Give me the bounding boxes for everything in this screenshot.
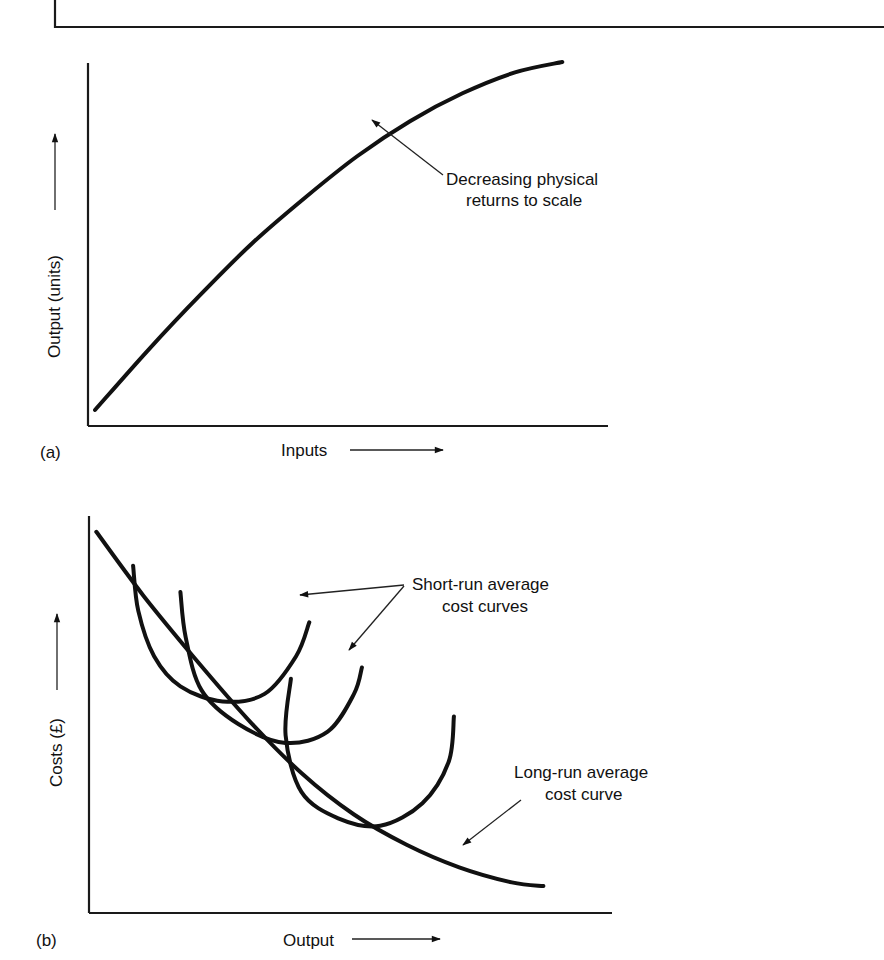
chart-a-annotation-line-2: returns to scale: [466, 191, 582, 210]
chart-a-annotation-line-1: Decreasing physical: [446, 170, 598, 189]
chart-b-srac-label-line-2: cost curves: [442, 597, 528, 616]
chart-a-y-label: Output (units): [45, 255, 64, 358]
chart-b-srac-arrow-2: [349, 586, 404, 650]
chart-b-short-run-average-cost-curve-1: [133, 566, 309, 702]
chart-a-x-label: Inputs: [281, 441, 327, 460]
figure: Decreasing physical returns to scale Out…: [0, 0, 884, 960]
chart-a: Decreasing physical returns to scale Out…: [40, 62, 608, 462]
chart-b-short-run-average-cost-curve-2: [180, 592, 362, 743]
chart-a-panel-label: (a): [40, 443, 61, 462]
chart-b-x-label: Output: [283, 931, 334, 950]
chart-b-panel-label: (b): [36, 931, 57, 950]
chart-a-annotation-arrow: [372, 120, 443, 175]
chart-b-lrac-arrow: [463, 800, 521, 845]
chart-a-output-curve: [95, 62, 562, 410]
chart-b-short-run-average-cost-curve-3: [285, 679, 454, 827]
top-frame: [55, 0, 884, 27]
chart-b-srac-arrow-1: [300, 585, 404, 595]
chart-b: Short-run average cost curves Long-run a…: [36, 516, 648, 950]
chart-b-lrac-label-line-2: cost curve: [545, 785, 622, 804]
chart-b-y-label: Costs (£): [47, 718, 66, 787]
chart-b-srac-label-line-1: Short-run average: [412, 575, 549, 594]
chart-b-lrac-label-line-1: Long-run average: [514, 763, 648, 782]
